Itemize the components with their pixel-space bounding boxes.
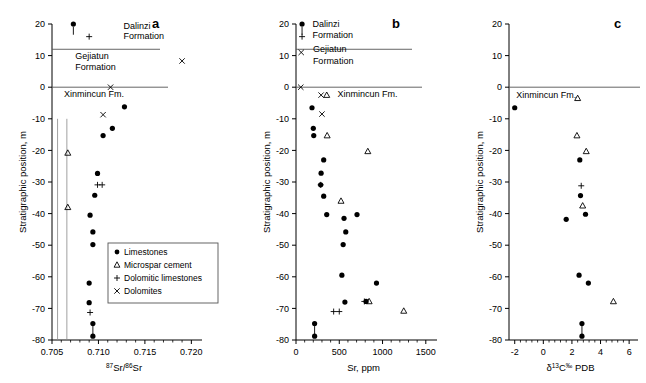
point-microspar-cement bbox=[583, 148, 589, 153]
y-tick-label-a: -40 bbox=[32, 209, 45, 219]
point-limestone bbox=[318, 171, 323, 176]
point-limestone bbox=[321, 157, 326, 162]
x-tick-label-b: 1500 bbox=[416, 347, 436, 357]
y-tick-label-b: -40 bbox=[276, 209, 289, 219]
point-limestone bbox=[90, 229, 95, 234]
point-limestone bbox=[564, 217, 569, 222]
point-dolomite bbox=[319, 111, 324, 116]
point-limestone bbox=[324, 212, 329, 217]
y-tick-label-c: -10 bbox=[489, 114, 502, 124]
panel-a: 20100-10-20-30-40-50-60-70-800.7050.7100… bbox=[17, 16, 203, 373]
y-tick-label-a: -20 bbox=[32, 146, 45, 156]
x-tick-label-c: 0 bbox=[541, 347, 546, 357]
y-tick-label-b: 10 bbox=[279, 51, 289, 61]
point-limestone bbox=[576, 273, 581, 278]
series-limestones-b bbox=[299, 21, 379, 338]
annotation-xinmincun-fm-: Xinmincun Fm. bbox=[338, 89, 398, 99]
point-limestone bbox=[579, 334, 584, 339]
point-limestone bbox=[341, 242, 346, 247]
y-tick-label-a: -80 bbox=[32, 335, 45, 345]
y-tick-label-b: -30 bbox=[276, 177, 289, 187]
point-limestone bbox=[90, 321, 95, 326]
y-tick-label-a: 0 bbox=[40, 82, 45, 92]
panel-letter-c: c bbox=[614, 16, 621, 31]
point-limestone bbox=[71, 21, 76, 26]
legend-symbol-dolomites bbox=[114, 288, 119, 293]
y-tick-label-a: -10 bbox=[32, 114, 45, 124]
series-limestones-c bbox=[512, 105, 591, 339]
x-tick-label-c: 2 bbox=[569, 347, 574, 357]
y-tick-label-b: 0 bbox=[284, 82, 289, 92]
x-tick-label-a: 0.705 bbox=[41, 347, 64, 357]
point-limestone bbox=[299, 21, 304, 26]
point-limestone bbox=[583, 212, 588, 217]
x-tick-label-c: 6 bbox=[627, 347, 632, 357]
legend-label-dolomites: Dolomites bbox=[124, 286, 162, 296]
x-tick-label-a: 0.710 bbox=[87, 347, 110, 357]
point-limestone bbox=[579, 321, 584, 326]
point-dolomitic-limestone bbox=[336, 309, 342, 315]
point-microspar-cement bbox=[365, 148, 371, 153]
point-limestone bbox=[374, 281, 379, 286]
series-microspar-cement-a bbox=[65, 150, 71, 210]
annotation-formation: Formation bbox=[313, 56, 354, 66]
point-limestone bbox=[512, 105, 517, 110]
y-axis-title-c: Stratigraphic position, m bbox=[474, 131, 485, 233]
legend-label-limestones: Limestones bbox=[124, 247, 167, 257]
x-tick-label-a: 0.720 bbox=[180, 347, 203, 357]
point-microspar-cement bbox=[65, 150, 71, 155]
legend-label-microspar-cement: Microspar cement bbox=[124, 260, 192, 270]
point-microspar-cement bbox=[580, 203, 586, 208]
y-tick-label-a: 20 bbox=[35, 19, 45, 29]
series-dolomitic-limestones-c bbox=[578, 183, 584, 189]
y-tick-label-b: -20 bbox=[276, 146, 289, 156]
annotation-formation: Formation bbox=[124, 31, 165, 41]
y-tick-label-a: 10 bbox=[35, 51, 45, 61]
point-dolomitic-limestone bbox=[87, 310, 93, 316]
point-limestone bbox=[578, 193, 583, 198]
point-limestone bbox=[577, 157, 582, 162]
y-tick-label-c: -60 bbox=[489, 272, 502, 282]
legend-symbol-dolomitic-limestones bbox=[114, 275, 120, 281]
y-tick-label-c: -80 bbox=[489, 335, 502, 345]
point-limestone bbox=[90, 334, 95, 339]
point-limestone bbox=[321, 194, 326, 199]
y-tick-label-b: -70 bbox=[276, 304, 289, 314]
point-limestone bbox=[312, 334, 317, 339]
y-tick-label-c: -40 bbox=[489, 209, 502, 219]
x-tick-label-b: 0 bbox=[293, 347, 298, 357]
point-limestone bbox=[110, 126, 115, 131]
x-tick-label-b: 500 bbox=[332, 347, 347, 357]
point-limestone bbox=[586, 281, 591, 286]
point-dolomite bbox=[100, 112, 105, 117]
y-tick-label-c: -70 bbox=[489, 304, 502, 314]
point-microspar-cement bbox=[338, 198, 344, 203]
point-microspar-cement bbox=[574, 132, 580, 137]
x-axis-title-a: 87Sr/86Sr bbox=[106, 362, 142, 374]
point-limestone bbox=[87, 213, 92, 218]
point-dolomite bbox=[179, 58, 184, 63]
point-microspar-cement bbox=[324, 132, 330, 137]
point-microspar-cement bbox=[65, 204, 71, 209]
point-limestone bbox=[87, 281, 92, 286]
point-limestone bbox=[339, 273, 344, 278]
point-microspar-cement bbox=[610, 298, 616, 303]
y-tick-label-a: -30 bbox=[32, 177, 45, 187]
y-tick-label-c: -20 bbox=[489, 146, 502, 156]
y-tick-label-b: 20 bbox=[279, 19, 289, 29]
point-dolomitic-limestone bbox=[99, 182, 105, 188]
point-limestone bbox=[311, 133, 316, 138]
y-tick-label-c: 20 bbox=[492, 19, 502, 29]
point-limestone bbox=[122, 104, 127, 109]
legend-symbol-limestones bbox=[115, 250, 120, 255]
annotation-xinmincun-fm-: Xinmincun Fm. bbox=[516, 90, 576, 100]
point-dolomite bbox=[318, 92, 323, 97]
legend-symbol-microspar-cement bbox=[114, 262, 120, 267]
annotation-dalinzi: Dalinzi bbox=[124, 21, 151, 31]
series-dolomitic-limestones-b bbox=[299, 34, 367, 315]
panel-letter-b: b bbox=[392, 16, 400, 31]
legend: LimestonesMicrospar cementDolomitic lime… bbox=[108, 243, 218, 303]
y-axis-title-a: Stratigraphic position, m bbox=[17, 131, 28, 233]
y-tick-label-a: -60 bbox=[32, 272, 45, 282]
point-dolomitic-limestone bbox=[318, 182, 324, 188]
